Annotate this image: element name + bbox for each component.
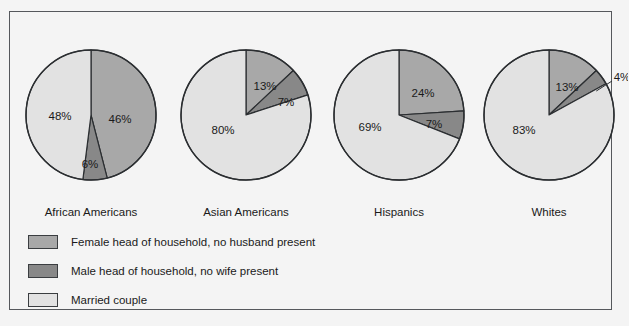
pie-chart-hispanics: 24%7%69% <box>320 36 478 194</box>
chart-page: 46%6%48%African Americans13%7%80%Asian A… <box>0 0 629 326</box>
legend-item: Male head of household, no wife present <box>28 263 315 279</box>
legend-label: Female head of household, no husband pre… <box>71 236 315 248</box>
pie-slice-label-female_head: 46% <box>108 113 131 125</box>
legend-item: Female head of household, no husband pre… <box>28 234 315 250</box>
pie-slice-label-female_head: 13% <box>253 80 276 92</box>
chart-legend: Female head of household, no husband pre… <box>28 234 315 321</box>
pie-category-label-african-americans: African Americans <box>45 206 138 218</box>
legend-swatch <box>28 293 58 307</box>
pie-chart-african-americans: 46%6%48% <box>12 36 170 194</box>
pie-slice-label-married_couple: 83% <box>512 124 535 136</box>
pie-chart-asian-americans: 13%7%80% <box>167 36 325 194</box>
pie-category-label-hispanics: Hispanics <box>374 206 424 218</box>
legend-swatch <box>28 264 58 278</box>
pie-slice-label-male_head: 7% <box>426 118 443 130</box>
pie-category-label-asian-americans: Asian Americans <box>203 206 289 218</box>
pie-slice-label-male_head: 4% <box>614 71 628 83</box>
pie-chart-whites: 13%4%83% <box>470 36 628 194</box>
chart-frame: 46%6%48%African Americans13%7%80%Asian A… <box>9 11 612 310</box>
pie-slice-label-female_head: 13% <box>555 81 578 93</box>
legend-item: Married couple <box>28 292 315 308</box>
legend-label: Married couple <box>71 294 147 306</box>
pie-slice-label-married_couple: 80% <box>211 124 234 136</box>
pie-slice-label-married_couple: 48% <box>48 110 71 122</box>
pie-slice-label-married_couple: 69% <box>358 121 381 133</box>
legend-swatch <box>28 235 58 249</box>
pie-slice-label-female_head: 24% <box>411 87 434 99</box>
legend-label: Male head of household, no wife present <box>71 265 278 277</box>
pie-slice-label-male_head: 7% <box>278 96 295 108</box>
pie-slice-label-male_head: 6% <box>82 158 99 170</box>
pie-category-label-whites: Whites <box>531 206 566 218</box>
pie-slice-female_head <box>399 50 464 115</box>
